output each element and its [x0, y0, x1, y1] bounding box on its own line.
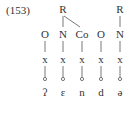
- skeleton-slot: x: [42, 53, 48, 65]
- skeleton-slot: x: [117, 53, 123, 65]
- constituent-nucleus-1: N: [59, 28, 67, 40]
- constituent-onset-2: O: [97, 28, 105, 40]
- segment: ʔ: [43, 86, 48, 98]
- skeleton-slot: x: [79, 53, 85, 65]
- segment: n: [79, 86, 85, 98]
- constituent-coda: Co: [76, 28, 89, 40]
- skeleton-slot: x: [60, 53, 66, 65]
- segment: ə: [118, 86, 123, 98]
- tree-lines: [0, 0, 134, 120]
- segment: d: [98, 86, 104, 98]
- skeleton-slot: x: [98, 53, 104, 65]
- segment: ɛ: [61, 86, 66, 98]
- constituent-nucleus-2: N: [116, 28, 124, 40]
- constituent-onset-1: O: [41, 28, 49, 40]
